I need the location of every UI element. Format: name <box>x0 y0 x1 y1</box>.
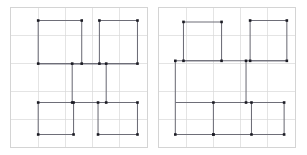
vertex-marker <box>136 101 139 104</box>
panel-right-vertices <box>174 19 288 136</box>
panel-right-loops <box>175 21 287 135</box>
vertex-marker <box>249 60 252 63</box>
panel-right-frame <box>159 8 296 148</box>
vertex-marker <box>220 60 223 63</box>
loop-path-loop-upper-right <box>250 21 287 61</box>
vertex-marker <box>97 133 100 136</box>
panel-left-vertices <box>37 19 139 136</box>
vertex-marker <box>283 101 286 104</box>
vertex-marker <box>37 62 40 65</box>
vertex-marker <box>98 62 101 65</box>
vertex-marker <box>37 101 40 104</box>
vertex-marker <box>283 133 286 136</box>
vertex-marker <box>105 101 108 104</box>
vertex-marker <box>105 62 108 65</box>
vertex-marker <box>72 133 75 136</box>
loop-path-loop-center <box>72 64 106 103</box>
panel-right <box>154 0 307 155</box>
figure-root <box>0 0 307 155</box>
vertex-marker <box>97 101 100 104</box>
vertex-marker <box>98 19 101 22</box>
vertex-marker <box>174 60 177 63</box>
vertex-marker <box>80 62 83 65</box>
vertex-marker <box>249 19 252 22</box>
vertex-marker <box>71 62 74 65</box>
vertex-marker <box>182 60 185 63</box>
vertex-marker <box>212 101 215 104</box>
vertex-marker <box>182 21 185 24</box>
loop-path-loop-lower-left <box>38 103 73 135</box>
vertex-marker <box>80 19 83 22</box>
vertex-marker <box>220 21 223 24</box>
vertex-marker <box>174 133 177 136</box>
loop-path-loop-center <box>213 61 251 135</box>
panel-left-grid <box>11 8 147 147</box>
vertex-marker <box>37 133 40 136</box>
loop-path-loop-upper-right <box>99 21 137 64</box>
panel-left <box>0 0 153 155</box>
vertex-marker <box>286 60 289 63</box>
vertex-marker <box>37 19 40 22</box>
vertex-marker <box>245 60 248 63</box>
vertex-marker <box>212 133 215 136</box>
loop-path-loop-lower-left <box>175 61 213 135</box>
loop-path-loop-upper-left <box>38 21 82 64</box>
vertex-marker <box>250 101 253 104</box>
vertex-marker <box>136 133 139 136</box>
vertex-marker <box>286 19 289 22</box>
vertex-marker <box>136 19 139 22</box>
vertex-marker <box>250 133 253 136</box>
panel-left-loops <box>38 21 137 135</box>
panel-right-canvas <box>154 0 307 155</box>
loop-path-loop-upper-left <box>183 22 221 61</box>
panel-left-frame <box>11 8 148 148</box>
panel-right-grid <box>159 8 295 147</box>
panel-left-canvas <box>0 0 153 155</box>
vertex-marker <box>245 101 248 104</box>
vertex-marker <box>72 101 75 104</box>
loop-path-loop-lower-right <box>98 103 137 135</box>
vertex-marker <box>136 62 139 65</box>
